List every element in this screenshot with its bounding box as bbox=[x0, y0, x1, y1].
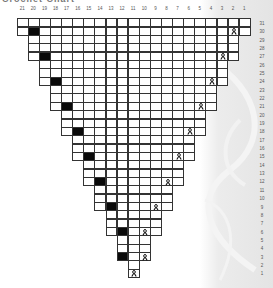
row-number: 1 bbox=[256, 271, 268, 276]
column-number: 17 bbox=[61, 6, 72, 11]
grid-cell bbox=[150, 227, 162, 236]
column-number: 12 bbox=[117, 6, 128, 11]
grid-cell bbox=[205, 102, 217, 111]
grid-cell bbox=[239, 27, 251, 36]
column-number: 6 bbox=[183, 6, 194, 11]
grid-cell bbox=[217, 77, 229, 86]
row-number: 11 bbox=[256, 188, 268, 193]
row-number: 3 bbox=[256, 255, 268, 260]
column-number: 9 bbox=[150, 6, 161, 11]
row-number: 31 bbox=[256, 21, 268, 26]
ribbon-stitch-cell bbox=[139, 252, 151, 261]
filled-stitch-cell bbox=[117, 252, 129, 261]
row-number: 10 bbox=[256, 196, 268, 201]
row-number: 28 bbox=[256, 46, 268, 51]
row-number: 29 bbox=[256, 38, 268, 43]
row-number: 20 bbox=[256, 113, 268, 118]
column-number: 13 bbox=[106, 6, 117, 11]
row-number: 2 bbox=[256, 263, 268, 268]
grid-cell bbox=[194, 127, 206, 136]
column-number: 8 bbox=[161, 6, 172, 11]
grid-cell bbox=[106, 227, 118, 236]
row-number: 6 bbox=[256, 230, 268, 235]
column-number: 21 bbox=[17, 6, 28, 11]
column-number: 11 bbox=[128, 6, 139, 11]
row-number: 13 bbox=[256, 171, 268, 176]
grid-cell bbox=[94, 202, 106, 211]
row-number: 4 bbox=[256, 246, 268, 251]
grid-cell bbox=[83, 177, 95, 186]
grid-cell bbox=[50, 102, 62, 111]
grid-cell bbox=[183, 152, 195, 161]
row-number: 26 bbox=[256, 63, 268, 68]
column-number: 19 bbox=[39, 6, 50, 11]
row-number: 18 bbox=[256, 129, 268, 134]
column-number: 2 bbox=[228, 6, 239, 11]
row-number: 17 bbox=[256, 138, 268, 143]
row-number: 23 bbox=[256, 88, 268, 93]
row-number: 19 bbox=[256, 121, 268, 126]
grid-cell bbox=[172, 177, 184, 186]
grid-cell bbox=[39, 77, 51, 86]
row-number: 27 bbox=[256, 54, 268, 59]
row-number: 14 bbox=[256, 163, 268, 168]
row-number: 8 bbox=[256, 213, 268, 218]
ribbon-icon bbox=[142, 254, 148, 261]
column-number: 16 bbox=[72, 6, 83, 11]
ribbon-stitch-cell bbox=[128, 269, 140, 278]
row-number: 24 bbox=[256, 79, 268, 84]
column-number: 1 bbox=[239, 6, 250, 11]
column-number: 14 bbox=[94, 6, 105, 11]
column-number: 3 bbox=[217, 6, 228, 11]
column-number: 5 bbox=[194, 6, 205, 11]
grid-cell bbox=[17, 27, 29, 36]
column-number: 4 bbox=[205, 6, 216, 11]
chart-title: Crochet Chart bbox=[2, 0, 75, 4]
column-number: 20 bbox=[28, 6, 39, 11]
row-number: 7 bbox=[256, 221, 268, 226]
grid-cell bbox=[61, 127, 73, 136]
row-number: 21 bbox=[256, 104, 268, 109]
grid-cell bbox=[228, 52, 240, 61]
row-number: 15 bbox=[256, 154, 268, 159]
row-number: 9 bbox=[256, 205, 268, 210]
column-number: 7 bbox=[172, 6, 183, 11]
grid-cell bbox=[161, 202, 173, 211]
column-number: 15 bbox=[83, 6, 94, 11]
column-number: 10 bbox=[139, 6, 150, 11]
row-number: 30 bbox=[256, 29, 268, 34]
row-number: 25 bbox=[256, 71, 268, 76]
grid-cell bbox=[28, 52, 40, 61]
row-number: 22 bbox=[256, 96, 268, 101]
row-number: 5 bbox=[256, 238, 268, 243]
row-number: 16 bbox=[256, 146, 268, 151]
ribbon-icon bbox=[131, 270, 137, 277]
grid-cell bbox=[72, 152, 84, 161]
row-number: 12 bbox=[256, 179, 268, 184]
column-number: 18 bbox=[50, 6, 61, 11]
